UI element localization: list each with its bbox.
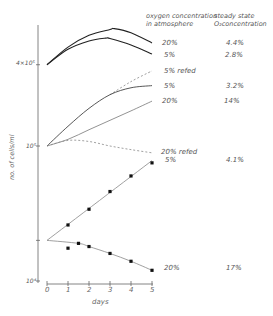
series-label-oxygen: 20% refed <box>161 148 197 156</box>
series-label-oxygen: 20% <box>162 97 178 105</box>
series-label-steady: 17% <box>226 264 242 272</box>
series-line <box>110 71 152 95</box>
legend-header-oxygen-line1: oxygen concentration <box>146 12 217 20</box>
data-point <box>87 208 90 211</box>
legend-header-oxygen-line2: in atmosphere <box>146 20 217 28</box>
data-point <box>150 269 153 272</box>
x-tick-label: 0 <box>45 286 49 294</box>
series-line <box>47 161 152 241</box>
data-point <box>129 174 132 177</box>
y-axis-label: no. of cells/ml <box>8 135 16 180</box>
legend-header-steady-state: steady state O₂concentration <box>214 12 267 28</box>
x-axis-label: days <box>92 298 109 306</box>
series-label-steady: 14% <box>224 97 240 105</box>
series-label-steady: 3.2% <box>226 82 244 90</box>
series-label-steady: 4.1% <box>226 156 244 164</box>
x-tick-label: 3 <box>108 286 112 294</box>
series-line <box>47 140 152 153</box>
series-label-oxygen: 5% <box>164 51 175 59</box>
axes <box>38 25 153 284</box>
y-tick-label-1e5: 10⁵ <box>26 142 36 149</box>
legend-header-oxygen: oxygen concentration in atmosphere <box>146 12 217 28</box>
data-point <box>87 245 90 248</box>
y-tick-label-1e4: 10⁴ <box>26 277 36 284</box>
series-label-oxygen: 5% <box>164 82 175 90</box>
legend-header-steady-line2: O₂concentration <box>214 20 267 28</box>
x-tick-label: 5 <box>150 286 154 294</box>
x-tick-label: 1 <box>66 286 70 294</box>
series-label-steady: 2.8% <box>225 51 243 59</box>
data-point <box>108 252 111 255</box>
x-tick-label: 2 <box>87 286 91 294</box>
data-point <box>66 247 69 250</box>
data-point <box>77 242 80 245</box>
data-point <box>150 161 153 164</box>
series-label-oxygen: 5% refed <box>164 67 196 75</box>
legend-header-steady-line1: steady state <box>214 12 267 20</box>
series-line <box>47 240 152 270</box>
data-point <box>129 260 132 263</box>
series-line <box>47 101 152 146</box>
series-label-oxygen: 20% <box>164 264 180 272</box>
series-line <box>47 86 152 146</box>
data-point <box>66 223 69 226</box>
series-label-oxygen: 20% <box>162 39 178 47</box>
data-point <box>108 190 111 193</box>
x-tick-label: 4 <box>129 286 133 294</box>
y-tick-label-4e5: 4×10⁵ <box>16 59 35 66</box>
series-label-steady: 4.4% <box>226 39 244 47</box>
series-label-oxygen: 5% <box>165 156 176 164</box>
